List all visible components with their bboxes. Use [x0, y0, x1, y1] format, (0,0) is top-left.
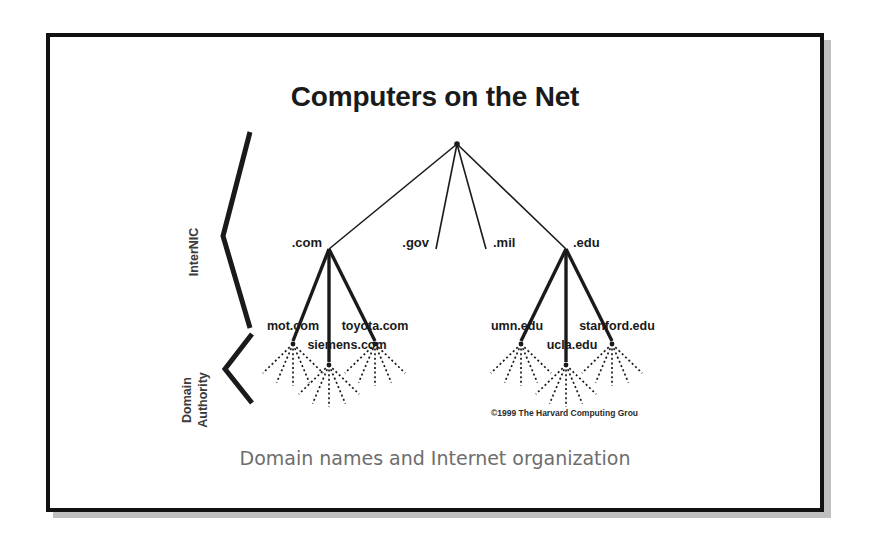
- slide-frame: Computers on the Net .com.gov.mil.edu mo…: [46, 33, 824, 512]
- fan-umn-edu-ray-4: [505, 344, 521, 383]
- tld-label-gov: .gov: [402, 235, 429, 250]
- fan-siemens-com-ray-1: [329, 365, 359, 394]
- host-label-siemens-com: siemens.com: [307, 338, 386, 352]
- root-to-tld-edges: [329, 144, 566, 249]
- fan-mot-com-ray-4: [277, 344, 293, 383]
- tld-label-com: .com: [292, 235, 322, 250]
- fan-siemens-com-apex-dot: [327, 363, 332, 368]
- slide-canvas: Computers on the Net .com.gov.mil.edu mo…: [0, 0, 876, 545]
- domain-authority-brace: [225, 334, 252, 403]
- slide-content: Computers on the Net .com.gov.mil.edu mo…: [50, 37, 820, 508]
- side-label-domain-line1: Domain: [180, 377, 194, 423]
- node-dots: [454, 141, 460, 147]
- host-label-toyota-com: toyota.com: [342, 319, 409, 333]
- fan-stanford-edu-ray-2: [612, 344, 628, 383]
- side-label-domain-line2: Authority: [196, 372, 210, 428]
- hierarchy-braces: [223, 132, 252, 403]
- internic-brace: [223, 132, 250, 328]
- fan-stanford-edu-apex-dot: [610, 342, 615, 347]
- side-label-group: InterNIC Domain Authority: [180, 228, 210, 428]
- fan-umn-edu-ray-2: [521, 344, 537, 383]
- fan-ucla-edu-ray-1: [566, 365, 596, 394]
- fan-stanford-edu-ray-4: [596, 344, 612, 383]
- fan-umn-edu-apex-dot: [519, 342, 524, 347]
- edge-root-to-mil: [457, 144, 486, 249]
- root-node-dot: [454, 141, 460, 147]
- slide-caption: Domain names and Internet organization: [50, 447, 820, 469]
- fan-mot-com-apex-dot: [291, 342, 296, 347]
- host-labels: mot.comsiemens.comtoyota.comumn.eduucla.…: [267, 319, 655, 352]
- fan-siemens-com-ray-5: [299, 365, 329, 394]
- fan-stanford-edu-ray-1: [612, 344, 642, 373]
- host-label-stanford-edu: stanford.edu: [579, 319, 655, 333]
- fan-ucla-edu-ray-5: [536, 365, 566, 394]
- side-label-internic: InterNIC: [187, 228, 201, 277]
- fan-umn-edu-ray-5: [491, 344, 521, 373]
- edge-root-to-edu: [457, 144, 566, 249]
- host-label-umn-edu: umn.edu: [491, 319, 543, 333]
- fan-ucla-edu-apex-dot: [564, 363, 569, 368]
- host-label-mot-com: mot.com: [267, 319, 319, 333]
- fan-ucla-edu-ray-4: [550, 365, 566, 404]
- edge-root-to-com: [329, 144, 457, 249]
- tld-label-edu: .edu: [573, 235, 600, 250]
- copyright-notice: ©1999 The Harvard Computing Grou: [491, 408, 638, 418]
- fan-ucla-edu-ray-2: [566, 365, 582, 404]
- tld-label-mil: .mil: [493, 235, 515, 250]
- edge-root-to-gov: [436, 144, 457, 249]
- domain-tree-diagram: .com.gov.mil.edu mot.comsiemens.comtoyot…: [50, 37, 828, 516]
- fan-siemens-com-ray-2: [329, 365, 345, 404]
- fan-mot-com-ray-5: [263, 344, 293, 373]
- host-label-ucla-edu: ucla.edu: [547, 338, 598, 352]
